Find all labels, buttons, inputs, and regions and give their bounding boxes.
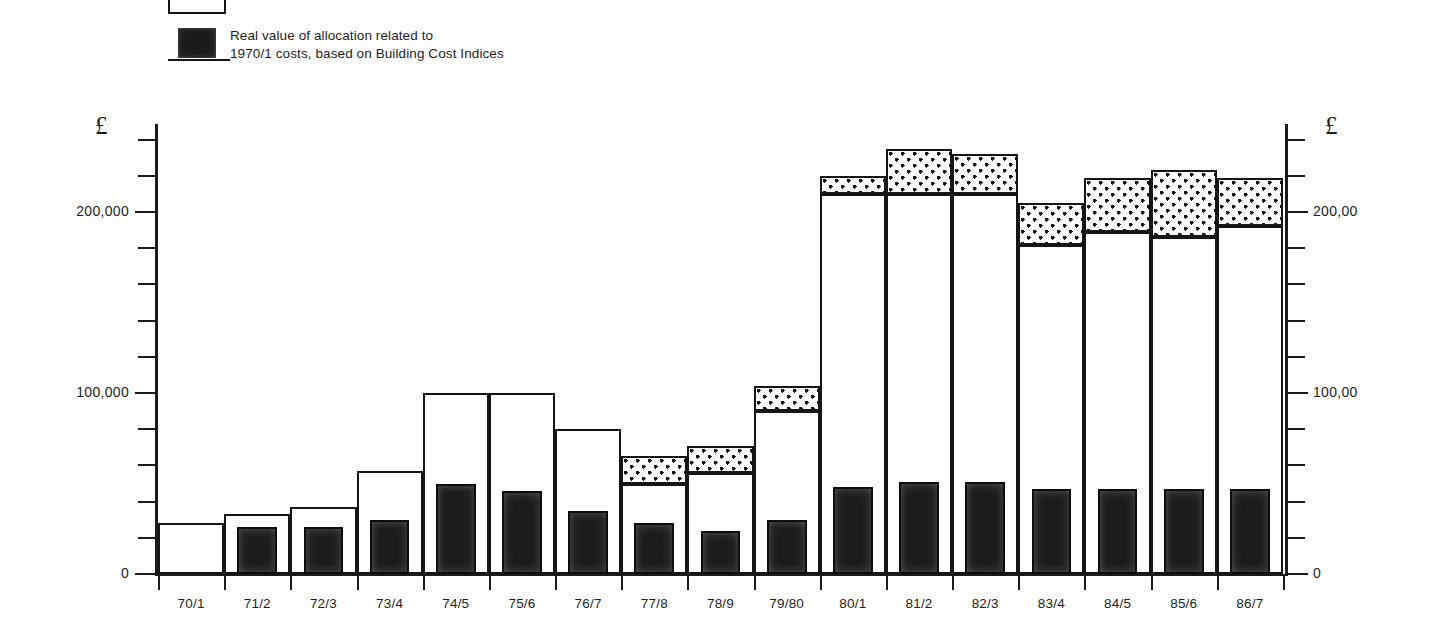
y-tick-minor-right [1288, 356, 1305, 358]
bar-segment-stippled [952, 154, 1018, 194]
y-axis-label-right: 0 [1313, 565, 1321, 581]
x-axis-tick [224, 574, 226, 590]
x-axis-tick [1084, 574, 1086, 590]
y-tick-major-right [1288, 211, 1308, 213]
x-axis-tick [555, 574, 557, 590]
bar-segment-stippled [820, 176, 886, 194]
x-axis-category-label: 77/8 [621, 596, 687, 611]
y-tick-minor-right [1288, 247, 1305, 249]
y-tick-minor-right [1288, 175, 1305, 177]
y-tick-major-left [135, 392, 155, 394]
y-tick-minor-right [1288, 501, 1305, 503]
bar-segment-real-value [1230, 489, 1270, 574]
y-tick-minor-left [138, 320, 155, 322]
legend-swatch-solid-black [168, 26, 230, 60]
bar-group [423, 124, 489, 574]
y-axis-label-left: 100,000 [0, 384, 129, 400]
x-axis-tick [820, 574, 822, 590]
y-tick-minor-right [1288, 537, 1305, 539]
bar-segment-real-value [701, 531, 741, 574]
y-tick-major-left [135, 211, 155, 213]
x-axis-tick [290, 574, 292, 590]
y-tick-minor-right [1288, 464, 1305, 466]
bar-segment-stippled [754, 386, 820, 411]
bar-segment-conservation-fund [158, 523, 224, 574]
x-axis-category-label: 81/2 [886, 596, 952, 611]
x-axis-category-label: 80/1 [820, 596, 886, 611]
x-axis-tick [158, 574, 160, 590]
chart-legend: Conservation Fund Real value of allocati… [168, 0, 504, 68]
bar-segment-stippled [886, 149, 952, 194]
legend-label-conservation-fund: Conservation Fund [230, 0, 346, 5]
bar-segment-stippled [621, 456, 687, 483]
bar-segment-real-value [436, 484, 476, 575]
y-tick-minor-right [1288, 283, 1305, 285]
bar-group [1084, 124, 1150, 574]
bar-group [357, 124, 423, 574]
y-tick-minor-right [1288, 320, 1305, 322]
bar-group [1217, 124, 1283, 574]
x-axis-category-label: 76/7 [555, 596, 621, 611]
bar-group [621, 124, 687, 574]
x-axis-category-label: 79/80 [754, 596, 820, 611]
bar-segment-real-value [767, 520, 807, 574]
chart-root: Conservation Fund Real value of allocati… [0, 0, 1435, 623]
legend-item-real-value: Real value of allocation related to 1970… [168, 26, 504, 62]
x-axis-category-label: 86/7 [1217, 596, 1283, 611]
bar-segment-real-value [1032, 489, 1072, 574]
bar-segment-stippled [1084, 178, 1150, 232]
legend-swatch-open-rectangle [168, 0, 230, 20]
bar-segment-real-value [965, 482, 1005, 574]
x-axis-tick [1018, 574, 1020, 590]
currency-symbol-right: £ [1325, 112, 1338, 140]
bar-segment-real-value [237, 527, 277, 574]
bar-group [224, 124, 290, 574]
bar-group [158, 124, 224, 574]
x-axis-tick [754, 574, 756, 590]
y-tick-minor-left [138, 139, 155, 141]
bar-group [1151, 124, 1217, 574]
legend-line: 1970/1 costs, based on Building Cost Ind… [230, 45, 504, 63]
bar-segment-real-value [304, 527, 344, 574]
x-axis-category-label: 73/4 [357, 596, 423, 611]
x-axis-tick [1217, 574, 1219, 590]
y-tick-minor-right [1288, 139, 1305, 141]
bar-segment-real-value [568, 511, 608, 574]
y-axis-label-right: 100,00 [1313, 384, 1358, 400]
bar-segment-stippled [1217, 178, 1283, 227]
x-axis-tick [886, 574, 888, 590]
y-tick-minor-right [1288, 428, 1305, 430]
y-tick-major-right [1288, 392, 1308, 394]
bar-segment-real-value [634, 523, 674, 574]
legend-line: Conservation Fund [230, 0, 346, 5]
y-axis-label-left: 200,000 [0, 203, 129, 219]
y-tick-minor-left [138, 464, 155, 466]
x-axis-category-label: 72/3 [290, 596, 356, 611]
y-tick-minor-left [138, 175, 155, 177]
legend-line: Real value of allocation related to [230, 27, 504, 45]
bar-segment-real-value [1164, 489, 1204, 574]
bar-segment-real-value [1098, 489, 1138, 574]
x-axis-category-label: 74/5 [423, 596, 489, 611]
bar-group [886, 124, 952, 574]
x-axis-category-label: 71/2 [224, 596, 290, 611]
x-axis-category-label: 78/9 [687, 596, 753, 611]
y-tick-minor-left [138, 283, 155, 285]
bar-segment-stippled [1018, 203, 1084, 245]
bar-group [489, 124, 555, 574]
bar-group [1018, 124, 1084, 574]
y-axis-label-left: 0 [0, 565, 129, 581]
bar-group [952, 124, 1018, 574]
x-axis-tick [357, 574, 359, 590]
legend-label-real-value: Real value of allocation related to 1970… [230, 26, 504, 62]
bar-group [754, 124, 820, 574]
currency-symbol-left: £ [95, 112, 108, 140]
y-axis-label-right: 200,00 [1313, 203, 1358, 219]
x-axis-tick [489, 574, 491, 590]
legend-item-conservation-fund: Conservation Fund [168, 0, 504, 20]
x-axis-baseline [158, 574, 1283, 576]
x-axis-tick [621, 574, 623, 590]
x-axis-category-label: 84/5 [1084, 596, 1150, 611]
x-axis-tick [687, 574, 689, 590]
x-axis-tick [952, 574, 954, 590]
